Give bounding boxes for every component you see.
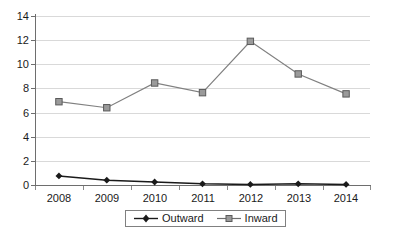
diamond-marker-icon [133,213,159,224]
data-point-inward-2010[interactable] [151,80,157,86]
data-point-outward-2010[interactable] [151,179,158,186]
data-point-inward-2013[interactable] [295,71,301,77]
legend: Outward Inward [125,210,286,227]
data-point-outward-2008[interactable] [56,173,63,180]
series-inward [56,38,350,111]
square-marker-icon [216,213,242,224]
series-outward [56,173,350,188]
series-layer [0,0,397,235]
data-point-outward-2009[interactable] [103,177,110,184]
data-point-inward-2014[interactable] [343,91,349,97]
data-point-inward-2009[interactable] [104,105,110,111]
data-point-inward-2011[interactable] [199,89,205,95]
legend-label-inward: Inward [245,213,278,224]
data-point-outward-2011[interactable] [199,180,206,187]
data-point-inward-2012[interactable] [247,38,253,44]
data-point-inward-2008[interactable] [56,99,62,105]
series-line-inward [59,41,346,107]
data-point-outward-2014[interactable] [343,181,350,188]
data-point-outward-2012[interactable] [247,181,254,188]
legend-entry-outward[interactable]: Outward [133,213,204,224]
data-point-outward-2013[interactable] [295,180,302,187]
legend-label-outward: Outward [162,213,204,224]
line-chart: 14 12 10 8 6 4 2 0 2008 2009 2010 2011 2… [0,0,397,235]
legend-entry-inward[interactable]: Inward [216,213,278,224]
